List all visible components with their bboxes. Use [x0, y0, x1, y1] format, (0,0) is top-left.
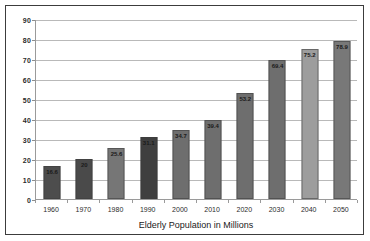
y-axis-tick-label: 20 — [23, 157, 31, 164]
x-axis-tick-mark — [196, 200, 197, 203]
x-axis-tick-mark — [164, 200, 165, 203]
plot-area: 16.62025.631.134.739.453.269.475.278.9 — [35, 20, 357, 200]
x-axis-tick-label: 1990 — [140, 206, 156, 213]
x-axis-tick-label: 2000 — [172, 206, 188, 213]
y-axis-tick-label: 60 — [23, 77, 31, 84]
bar-value-label: 20 — [81, 162, 88, 168]
y-axis-tick-label: 40 — [23, 117, 31, 124]
bar-value-label: 39.4 — [207, 123, 219, 129]
figure-border: 0102030405060708090 16.62025.631.134.739… — [5, 5, 364, 235]
bar[interactable]: 31.1 — [140, 137, 157, 199]
bar-slot: 25.6 — [100, 20, 132, 199]
y-axis: 0102030405060708090 — [6, 6, 35, 201]
y-axis-tick-label: 90 — [23, 17, 31, 24]
bar[interactable]: 16.6 — [44, 166, 61, 199]
x-axis-tick-mark — [35, 200, 36, 203]
bar-slot: 20 — [68, 20, 100, 199]
bar[interactable]: 34.7 — [172, 130, 189, 199]
x-axis-tick-label: 2040 — [301, 206, 317, 213]
bar[interactable]: 75.2 — [301, 49, 318, 199]
x-axis: 1960197019801990200020102020203020402050 — [35, 200, 357, 220]
chart-figure: 0102030405060708090 16.62025.631.134.739… — [0, 0, 370, 241]
bar-value-label: 78.9 — [336, 44, 348, 50]
bar-slot: 16.6 — [36, 20, 68, 199]
x-axis-tick-label: 2030 — [269, 206, 285, 213]
x-axis-tick-label: 1970 — [76, 206, 92, 213]
bar-series: 16.62025.631.134.739.453.269.475.278.9 — [36, 20, 357, 199]
x-axis-tick-mark — [357, 200, 358, 203]
bar-value-label: 31.1 — [143, 140, 155, 146]
bar-value-label: 34.7 — [175, 133, 187, 139]
x-axis-tick-mark — [132, 200, 133, 203]
x-axis-tick-mark — [99, 200, 100, 203]
y-axis-tick-label: 80 — [23, 37, 31, 44]
bar[interactable]: 39.4 — [205, 120, 222, 199]
y-axis-tick-label: 10 — [23, 177, 31, 184]
bar-slot: 78.9 — [326, 20, 358, 199]
x-axis-tick-label: 2010 — [204, 206, 220, 213]
y-axis-tick-label: 0 — [27, 197, 31, 204]
x-axis-tick-mark — [293, 200, 294, 203]
bar-slot: 39.4 — [197, 20, 229, 199]
bar-slot: 34.7 — [165, 20, 197, 199]
bar[interactable]: 69.4 — [269, 60, 286, 199]
x-axis-tick-mark — [325, 200, 326, 203]
x-axis-tick-mark — [228, 200, 229, 203]
bar-value-label: 75.2 — [304, 52, 316, 58]
bar-slot: 31.1 — [133, 20, 165, 199]
bar[interactable]: 78.9 — [333, 41, 350, 199]
bar[interactable]: 53.2 — [237, 93, 254, 199]
x-axis-tick-label: 2020 — [237, 206, 253, 213]
x-axis-title: Elderly Population in Millions — [35, 220, 357, 230]
bar-slot: 69.4 — [261, 20, 293, 199]
bar-value-label: 53.2 — [239, 96, 251, 102]
y-axis-tick-label: 70 — [23, 57, 31, 64]
bar-slot: 53.2 — [229, 20, 261, 199]
bar-value-label: 16.6 — [46, 169, 58, 175]
bar[interactable]: 25.6 — [108, 148, 125, 199]
x-axis-tick-mark — [260, 200, 261, 203]
bar-value-label: 25.6 — [111, 151, 123, 157]
y-axis-tick-label: 30 — [23, 137, 31, 144]
x-axis-tick-label: 1960 — [43, 206, 59, 213]
y-axis-tick-label: 50 — [23, 97, 31, 104]
bar-value-label: 69.4 — [272, 63, 284, 69]
x-axis-tick-mark — [67, 200, 68, 203]
bar-slot: 75.2 — [294, 20, 326, 199]
x-axis-tick-label: 1980 — [108, 206, 124, 213]
x-axis-tick-label: 2050 — [333, 206, 349, 213]
bar[interactable]: 20 — [76, 159, 93, 199]
